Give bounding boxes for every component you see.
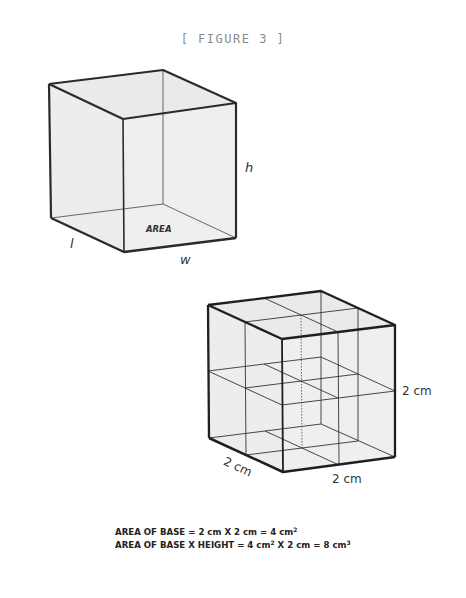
height-2cm-label: 2 cm (402, 384, 432, 398)
length-label: l (70, 236, 74, 251)
cube-2cm-grid: 2 cm 2 cm 2 cm (208, 291, 432, 486)
formula-area-of-base: AREA OF BASE = 2 cm X 2 cm = 4 cm2 (115, 526, 297, 537)
length-2cm-label: 2 cm (221, 454, 254, 479)
height-label: h (245, 160, 253, 175)
width-2cm-label: 2 cm (332, 472, 362, 486)
cube-lwh: h l w AREA (49, 70, 253, 267)
diagram-canvas: h l w AREA (0, 0, 466, 598)
width-label: w (180, 252, 191, 267)
formula-volume: AREA OF BASE X HEIGHT = 4 cm2 X 2 cm = 8… (115, 539, 351, 550)
base-area-label: AREA (145, 224, 172, 234)
